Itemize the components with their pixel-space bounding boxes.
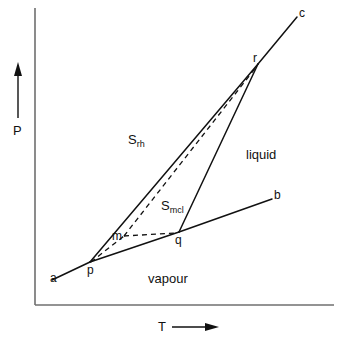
phase-diagram-figure: Srh Smcl liquid vapour a b c p q r m P T — [0, 0, 342, 344]
phase-diagram-canvas — [0, 0, 342, 344]
axis-frame — [35, 8, 334, 305]
pressure-axis-label: P — [13, 124, 22, 137]
point-label-q: q — [175, 234, 182, 246]
region-label-s-mcl: Smcl — [161, 199, 184, 212]
point-label-b: b — [274, 189, 281, 201]
region-label-s-rh-sub: rh — [137, 139, 145, 149]
point-label-p: p — [87, 264, 94, 276]
temperature-axis-arrow-icon — [172, 323, 219, 331]
region-label-s-mcl-sub: mcl — [170, 205, 184, 215]
curve-sublimation-ap — [52, 262, 90, 280]
curve-metastable-mr — [124, 66, 257, 236]
point-label-r: r — [253, 52, 257, 64]
region-label-s-mcl-main: S — [161, 198, 170, 213]
region-label-s-rh: Srh — [128, 133, 145, 146]
pressure-axis-arrow-icon — [14, 62, 22, 118]
point-label-a: a — [50, 272, 57, 284]
region-label-vapour: vapour — [148, 272, 188, 285]
point-label-c: c — [299, 7, 305, 19]
temperature-axis-label: T — [158, 320, 166, 333]
region-label-s-rh-main: S — [128, 132, 137, 147]
point-label-m: m — [112, 230, 122, 242]
region-label-liquid: liquid — [246, 148, 276, 161]
curve-fusion-rc — [258, 17, 297, 64]
